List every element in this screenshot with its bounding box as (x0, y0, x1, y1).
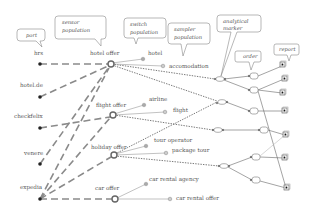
callout-sampler-population: sampler population (168, 23, 210, 56)
svg-text:port: port (26, 32, 38, 39)
port-checkfelix[interactable]: checkfelix (14, 113, 44, 130)
switch-airline[interactable]: airline (142, 96, 168, 107)
report-node[interactable] (282, 154, 288, 160)
svg-text:flight: flight (173, 107, 189, 114)
order-node[interactable] (250, 154, 260, 160)
svg-text:hotel.de: hotel.de (20, 82, 44, 88)
switch-hotel[interactable]: hotel (141, 50, 162, 61)
marker-node[interactable] (212, 128, 224, 133)
svg-text:analytical: analytical (223, 18, 249, 25)
svg-text:order: order (243, 53, 258, 59)
port-expedia[interactable]: expedia (20, 184, 43, 201)
svg-text:car rental agency: car rental agency (149, 176, 200, 183)
order-node[interactable] (248, 108, 258, 114)
report-node[interactable] (282, 75, 288, 81)
sampler-car-rental-offer[interactable]: car rental offer (168, 195, 219, 201)
callout-order: order (235, 51, 261, 70)
sensor-nodes: hotel offer flight offer holiday offer c… (90, 50, 127, 202)
callout-analytical-marker: analytical marker (217, 15, 261, 76)
report-node[interactable] (280, 89, 286, 95)
order-node[interactable] (248, 73, 258, 79)
svg-text:venere: venere (23, 150, 44, 156)
svg-text:holiday offer: holiday offer (91, 144, 127, 151)
svg-text:hrs: hrs (34, 50, 43, 56)
svg-text:switch: switch (130, 21, 147, 27)
edge-checkfelix-flight-offer (40, 117, 110, 128)
svg-text:sampler: sampler (174, 26, 196, 33)
marker-node[interactable] (218, 164, 230, 169)
svg-text:hotel: hotel (148, 50, 163, 56)
marker-nodes (212, 77, 230, 169)
marker-node[interactable] (214, 77, 226, 82)
port-sensor-edges (40, 64, 112, 199)
report-node[interactable] (284, 184, 290, 190)
svg-text:accomodation: accomodation (169, 63, 209, 69)
order-node[interactable] (258, 127, 268, 133)
svg-text:airline: airline (149, 96, 168, 102)
callout-switch-population: switch population (124, 18, 166, 44)
marker-node[interactable] (216, 100, 228, 105)
svg-text:expedia: expedia (20, 184, 43, 191)
sampler-accomodation[interactable]: accomodation (161, 63, 209, 69)
svg-text:tour operator: tour operator (154, 137, 193, 144)
order-nodes (248, 73, 268, 183)
port-hotelde[interactable]: hotel.de (20, 82, 44, 99)
sensor-flight-offer[interactable]: flight offer (96, 102, 126, 118)
svg-text:checkfelix: checkfelix (14, 113, 44, 119)
callout-sensor-population: sensor population (55, 16, 106, 46)
switch-car-rental-agency[interactable]: car rental agency (144, 176, 199, 186)
callout-port: port (17, 29, 45, 47)
svg-text:population: population (174, 34, 202, 41)
svg-text:flight offer: flight offer (96, 102, 126, 109)
callout-report: report (274, 44, 299, 61)
report-node[interactable] (283, 131, 289, 137)
report-node[interactable] (282, 107, 288, 113)
svg-text:sensor: sensor (62, 19, 80, 25)
sensor-holiday-offer[interactable]: holiday offer (91, 144, 127, 158)
marker-order-report-edges (222, 66, 286, 188)
sampler-flight[interactable]: flight (163, 107, 189, 114)
port-nodes: hrs hotel.de checkfelix venere expedia (14, 50, 44, 201)
svg-text:population: population (62, 27, 90, 34)
port-venere[interactable]: venere (23, 150, 44, 166)
order-node[interactable] (250, 177, 260, 183)
sampler-package-tour[interactable]: package tour (164, 147, 209, 155)
svg-text:population: population (130, 29, 158, 36)
svg-text:report: report (279, 46, 296, 53)
order-node[interactable] (248, 87, 258, 93)
svg-text:hotel offer: hotel offer (90, 50, 120, 56)
switch-nodes: hotel airline tour operator car rental a… (141, 50, 199, 186)
svg-text:car rental offer: car rental offer (176, 195, 219, 201)
network-diagram: port sensor population switch population… (0, 0, 313, 213)
svg-text:package tour: package tour (172, 147, 210, 154)
svg-text:marker: marker (223, 25, 243, 31)
report-node[interactable] (280, 61, 286, 67)
svg-text:car offer: car offer (95, 185, 120, 191)
